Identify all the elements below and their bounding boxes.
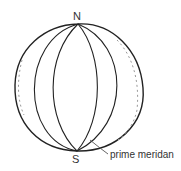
shading-left — [18, 60, 24, 115]
prime-meridian-label: prime meridan — [110, 150, 174, 160]
meridian-2 — [53, 24, 78, 151]
meridian-3 — [77, 24, 97, 151]
south-pole-label: S — [72, 154, 79, 165]
north-pole-label: N — [73, 11, 81, 22]
globe-diagram — [0, 0, 181, 171]
meridian-1 — [34, 24, 78, 151]
shading-right — [117, 40, 138, 140]
